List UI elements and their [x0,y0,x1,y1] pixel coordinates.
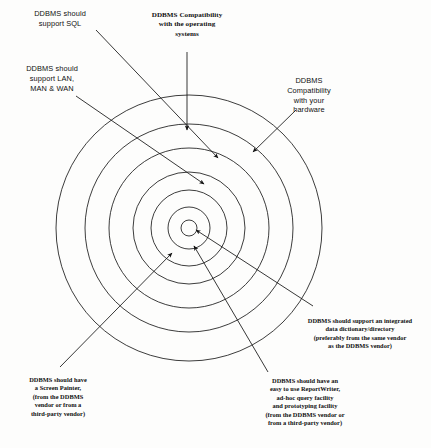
label-network-support: DDBMS should support LAN, MAN & WAN [2,64,102,93]
diagram-canvas: DDBMS should support SQL DDBMS should su… [0,0,431,448]
label-sql: DDBMS should support SQL [6,9,114,29]
ring-1-core [181,220,197,236]
label-data-dictionary: DDBMS should support an integrated data … [290,317,430,351]
ring-3 [151,190,227,266]
arrow-sql [96,30,218,158]
ring-4 [133,172,245,284]
label-operating-systems: DDBMS Compatibility with the operating s… [132,11,242,39]
ring-group [56,95,322,361]
ring-6 [85,124,293,332]
ring-7-outer [56,95,322,361]
arrow-network [76,96,204,184]
arrow-screen-painter [60,253,172,367]
arrow-hardware [253,110,296,152]
label-report-writer: DDBMS should have an easy to use ReportW… [246,377,364,428]
label-screen-painter: DDBMS should have a Screen Painter, (fro… [2,376,114,418]
label-hardware-compatibility: DDBMS Compatibility with your hardware [268,76,350,115]
arrow-data-dictionary [196,230,313,306]
ring-2 [168,207,210,249]
